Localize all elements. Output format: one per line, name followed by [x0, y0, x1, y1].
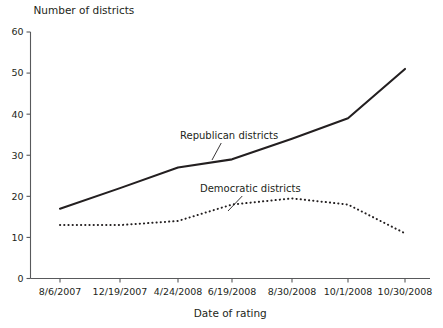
y-axis-tick-label: 20 — [11, 191, 23, 202]
x-axis-title: Date of rating — [194, 307, 267, 319]
line-chart: 0102030405060Number of districts8/6/2007… — [0, 0, 443, 328]
annotation-leader-1 — [228, 196, 242, 211]
y-axis-tick-label: 60 — [11, 26, 23, 37]
y-axis-tick-label: 10 — [11, 232, 23, 243]
y-axis-tick-label: 40 — [11, 109, 23, 120]
series-line-democratic-districts — [60, 198, 405, 233]
x-axis-tick-label: 8/30/2008 — [268, 286, 317, 297]
annotation-label-0: Republican districts — [180, 130, 278, 141]
y-axis-title: Number of districts — [34, 4, 135, 16]
y-axis-tick-label: 0 — [17, 273, 23, 284]
y-axis-tick-label: 30 — [11, 150, 23, 161]
x-axis-tick-label: 10/30/2008 — [378, 286, 433, 297]
x-axis-tick-label: 12/19/2007 — [93, 286, 148, 297]
annotation-label-1: Democratic districts — [200, 183, 301, 194]
x-axis-tick-label: 4/24/2008 — [154, 286, 203, 297]
x-axis-tick-label: 8/6/2007 — [39, 286, 82, 297]
x-axis-tick-label: 10/1/2008 — [324, 286, 373, 297]
x-axis-tick-label: 6/19/2008 — [208, 286, 257, 297]
chart-canvas: 0102030405060Number of districts8/6/2007… — [0, 0, 443, 328]
y-axis-tick-label: 50 — [11, 67, 23, 78]
annotation-leader-0 — [212, 143, 221, 160]
